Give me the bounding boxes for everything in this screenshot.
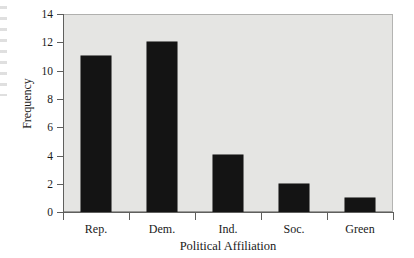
y-tick-mark-12 [57,42,63,43]
y-tick-label-8: 8 [33,94,53,105]
y-axis-line [63,14,64,213]
bar-slot-green [327,14,393,212]
bar-green [345,198,375,212]
y-tick-mark-2 [57,184,63,185]
y-tick-mark-4 [57,156,63,157]
y-tick-label-6: 6 [33,122,53,133]
bar-slot-soc [261,14,327,212]
y-axis-title: Frequency [21,59,34,149]
x-tick-label-dem: Dem. [129,222,195,236]
bars-layer [63,14,393,212]
x-tick-label-ind: Ind. [195,222,261,236]
y-tick-label-4: 4 [33,151,53,162]
y-tick-mark-8 [57,99,63,100]
scan-edge-artifact [0,6,7,96]
y-tick-label-2: 2 [33,179,53,190]
x-axis-title: Political Affiliation [63,239,393,253]
x-axis-line [63,212,394,213]
y-tick-mark-10 [57,71,63,72]
x-tick-mark-3 [261,213,262,220]
x-tick-mark-0 [63,213,64,220]
y-tick-label-14: 14 [33,9,53,20]
bar-slot-dem [129,14,195,212]
bar-dem [147,42,177,212]
x-tick-label-rep: Rep. [63,222,129,236]
x-tick-label-soc: Soc. [261,222,327,236]
bar-slot-rep [63,14,129,212]
bar-slot-ind [195,14,261,212]
y-tick-mark-14 [57,14,63,15]
x-tick-mark-4 [327,213,328,220]
y-tick-label-10: 10 [33,66,53,77]
x-tick-mark-2 [195,213,196,220]
bar-chart-figure: 14 12 10 8 6 4 2 0 Rep. Dem. Ind. Soc. G… [0,0,414,258]
bar-soc [279,184,309,212]
bar-rep [81,56,111,212]
x-tick-mark-1 [129,213,130,220]
bar-ind [213,155,243,212]
y-tick-mark-6 [57,127,63,128]
y-tick-label-0: 0 [33,207,53,218]
x-tick-mark-5 [393,213,394,220]
x-tick-label-green: Green [327,222,393,236]
y-tick-label-12: 12 [33,37,53,48]
